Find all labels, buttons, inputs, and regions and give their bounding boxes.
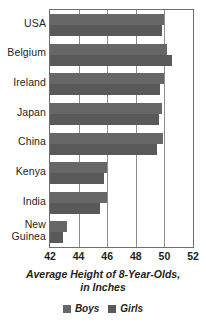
category-label-india: India: [0, 196, 46, 208]
bar-india-boys: [50, 192, 107, 203]
legend-swatch-icon: [63, 305, 71, 313]
bar-usa-boys: [50, 14, 164, 25]
x-tick-50: 50: [159, 250, 171, 262]
bar-new-guinea-boys: [50, 221, 67, 232]
category-label-kenya: Kenya: [0, 166, 46, 178]
bar-japan-girls: [50, 114, 159, 125]
bar-china-girls: [50, 144, 157, 155]
bar-group: [50, 69, 193, 99]
category-label-line-1: India: [0, 196, 46, 208]
category-label-line-2: Guinea: [0, 231, 46, 243]
bar-belgium-boys: [50, 44, 167, 55]
category-axis-labels: USABelgiumIrelandJapanChinaKenyaIndiaNew…: [0, 9, 46, 248]
bar-group: [50, 40, 193, 70]
category-label-line-1: Kenya: [0, 166, 46, 178]
axis-title: Average Height of 8-Year-Olds, in Inches: [8, 268, 198, 294]
category-label-line-1: Japan: [0, 107, 46, 119]
category-label-new: NewGuinea: [0, 219, 46, 242]
bar-india-girls: [50, 203, 100, 214]
category-label-ireland: Ireland: [0, 77, 46, 89]
category-label-belgium: Belgium: [0, 47, 46, 59]
legend-swatch-icon: [108, 305, 116, 313]
category-label-line-1: New: [0, 219, 46, 231]
legend-label: Boys: [75, 303, 99, 314]
legend-item-boys[interactable]: Boys: [63, 303, 99, 314]
bar-new-guinea-girls: [50, 232, 63, 243]
bar-usa-girls: [50, 25, 162, 36]
x-tick-52: 52: [187, 250, 199, 262]
category-label-line-1: China: [0, 136, 46, 148]
bar-group: [50, 10, 193, 40]
axis-title-line-1: Average Height of 8-Year-Olds,: [8, 268, 198, 281]
category-label-china: China: [0, 136, 46, 148]
category-label-line-1: Ireland: [0, 77, 46, 89]
bar-japan-boys: [50, 103, 162, 114]
legend-item-girls[interactable]: Girls: [108, 303, 143, 314]
bar-kenya-boys: [50, 162, 107, 173]
category-label-usa: USA: [0, 18, 46, 30]
bar-group: [50, 217, 193, 247]
category-label-line-1: Belgium: [0, 47, 46, 59]
bar-kenya-girls: [50, 173, 104, 184]
bar-belgium-girls: [50, 55, 172, 66]
bar-group: [50, 129, 193, 159]
bar-group: [50, 158, 193, 188]
x-tick-42: 42: [44, 250, 56, 262]
x-tick-46: 46: [101, 250, 113, 262]
plot-area: [49, 9, 194, 248]
x-tick-44: 44: [73, 250, 85, 262]
category-label-japan: Japan: [0, 107, 46, 119]
chart-legend: BoysGirls: [0, 303, 206, 314]
x-tick-48: 48: [130, 250, 142, 262]
bar-group: [50, 99, 193, 129]
axis-title-line-2: in Inches: [8, 281, 198, 294]
bar-ireland-girls: [50, 84, 160, 95]
category-label-line-1: USA: [0, 18, 46, 30]
bar-group: [50, 188, 193, 218]
bar-china-boys: [50, 133, 163, 144]
bars-layer: [50, 10, 193, 247]
chart-figure: USABelgiumIrelandJapanChinaKenyaIndiaNew…: [0, 0, 206, 322]
legend-label: Girls: [120, 303, 143, 314]
bar-ireland-boys: [50, 73, 164, 84]
x-axis-tick-labels: 424446485052: [49, 250, 194, 264]
